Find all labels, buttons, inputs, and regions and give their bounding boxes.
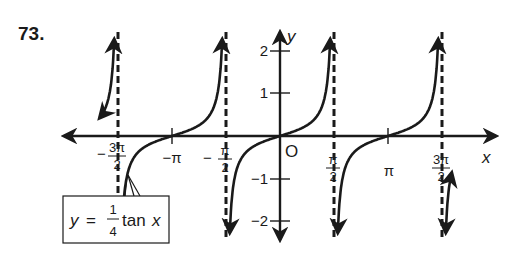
svg-text:4: 4	[109, 224, 116, 239]
x-tick-3pi-2: 3π 2	[432, 152, 450, 184]
svg-text:1: 1	[109, 202, 116, 217]
problem-number: 73.	[18, 23, 44, 44]
svg-text:3π: 3π	[433, 152, 449, 167]
svg-text:−: −	[97, 145, 106, 162]
svg-text:=: =	[86, 211, 96, 230]
x-axis-label: x	[481, 148, 491, 167]
svg-text:tan: tan	[122, 211, 146, 230]
curve-branch-0	[100, 40, 115, 118]
curve-branch-4	[446, 173, 452, 233]
origin-label: O	[285, 142, 298, 161]
x-tick-pi: π	[384, 162, 394, 179]
y-tick-neg1: −1	[251, 170, 268, 187]
svg-text:π: π	[221, 143, 230, 158]
y-tick-2: 2	[260, 42, 268, 59]
tangent-graph: 73. 2 1 −1 −2 y x O − 3π 2 −π − π 2	[0, 0, 521, 256]
svg-text:x: x	[151, 211, 161, 230]
x-tick-neg-pi-2: − π 2	[203, 143, 232, 175]
x-tick-neg-3pi-2: − 3π 2	[97, 140, 126, 172]
y-tick-1: 1	[260, 84, 268, 101]
x-tick-neg-pi: −π	[162, 149, 181, 166]
equation-label: y = 1 4 tan x	[63, 175, 169, 243]
svg-text:2: 2	[329, 169, 336, 184]
svg-text:2: 2	[221, 160, 228, 175]
svg-text:2: 2	[437, 169, 444, 184]
svg-text:π: π	[329, 152, 338, 167]
svg-text:2: 2	[113, 157, 120, 172]
svg-text:−: −	[203, 149, 212, 166]
y-tick-neg2: −2	[251, 212, 268, 229]
svg-text:y: y	[69, 211, 80, 230]
x-tick-pi-2: π 2	[326, 152, 340, 184]
svg-text:3π: 3π	[109, 140, 125, 155]
y-axis-label: y	[286, 27, 297, 46]
